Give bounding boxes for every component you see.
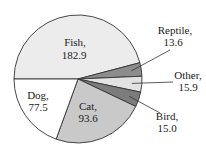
label-fish-value: 182.9 bbox=[62, 49, 87, 61]
label-bird-name: Bird, bbox=[156, 110, 179, 122]
label-dog-value: 77.5 bbox=[28, 101, 48, 113]
label-other-value: 15.9 bbox=[178, 81, 198, 93]
label-bird-value: 15.0 bbox=[157, 122, 177, 134]
pie-chart: Fish, 182.9 Reptile, 13.6 Other, 15.9 Bi… bbox=[0, 0, 206, 149]
label-cat-name: Cat, bbox=[79, 100, 97, 112]
label-other-name: Other, bbox=[174, 69, 202, 81]
label-fish-name: Fish, bbox=[64, 36, 86, 48]
label-cat-value: 93.6 bbox=[78, 112, 98, 124]
label-dog-name: Dog, bbox=[27, 89, 49, 101]
label-reptile-value: 13.6 bbox=[163, 36, 183, 48]
label-reptile-name: Reptile, bbox=[158, 24, 193, 36]
